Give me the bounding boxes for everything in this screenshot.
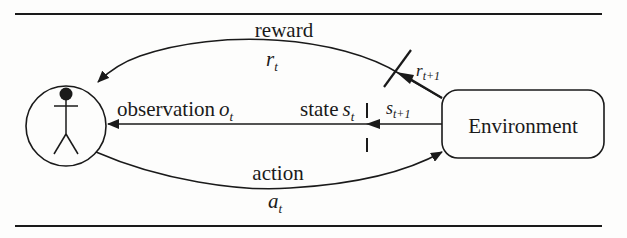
observation-label: observationot [117, 97, 233, 124]
reward-symbol: rt [266, 47, 278, 74]
action-symbol: at [268, 189, 283, 216]
reward-next-arrowhead [396, 72, 414, 84]
state-next-arrowhead [366, 119, 380, 129]
state-label: statest [300, 97, 355, 124]
rl-loop-diagram: Environment reward rt rt+1 observationot… [0, 0, 627, 238]
agent-node [26, 86, 106, 166]
state-next-symbol: st+1 [386, 98, 410, 121]
reward-label: reward [255, 18, 314, 42]
reward-time-divider [384, 50, 411, 87]
environment-label: Environment [468, 114, 578, 138]
stick-figure-icon [54, 88, 78, 155]
action-label: action [252, 161, 304, 185]
reward-next-symbol: rt+1 [416, 61, 440, 83]
environment-node: Environment [442, 90, 604, 158]
